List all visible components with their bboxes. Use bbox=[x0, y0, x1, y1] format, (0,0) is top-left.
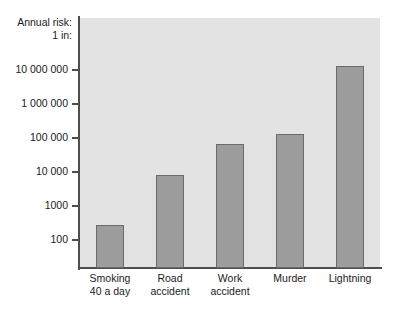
y-axis-tick-label: 10 000 bbox=[36, 166, 68, 177]
y-axis-tick bbox=[72, 137, 79, 139]
x-axis-category-label: Workaccident bbox=[200, 272, 260, 297]
x-axis-category-label-line: Lightning bbox=[320, 272, 380, 285]
y-axis-caption-line2: 1 in: bbox=[0, 29, 72, 42]
x-axis-category-label: Murder bbox=[260, 272, 320, 285]
y-axis-tick bbox=[72, 69, 79, 71]
y-axis-tick-label: 100 000 bbox=[30, 132, 68, 143]
y-axis-line bbox=[78, 16, 80, 270]
y-axis-tick-label: 1000 bbox=[45, 200, 68, 211]
bar bbox=[276, 134, 304, 268]
y-axis-caption-line1: Annual risk: bbox=[0, 16, 72, 29]
bar bbox=[96, 225, 124, 268]
y-axis-tick bbox=[72, 205, 79, 207]
y-axis-tick-label: 100 bbox=[50, 234, 68, 245]
x-axis-category-label-line: accident bbox=[140, 285, 200, 298]
bar bbox=[216, 144, 244, 268]
x-axis-category-label-line: Road bbox=[140, 272, 200, 285]
x-axis-category-label: Smoking40 a day bbox=[80, 272, 140, 297]
y-axis-tick bbox=[72, 239, 79, 241]
y-axis-tick-label: 10 000 000 bbox=[15, 64, 68, 75]
y-axis-tick bbox=[72, 103, 79, 105]
y-axis-tick-label: 1 000 000 bbox=[21, 98, 68, 109]
y-axis-caption: Annual risk: 1 in: bbox=[0, 16, 72, 42]
bar bbox=[336, 66, 364, 268]
x-axis-category-label: Roadaccident bbox=[140, 272, 200, 297]
x-axis-category-label-line: 40 a day bbox=[80, 285, 140, 298]
bar-chart: Annual risk: 1 in: 10 000 0001 000 00010… bbox=[0, 0, 398, 315]
x-axis-category-label-line: Work bbox=[200, 272, 260, 285]
bar bbox=[156, 175, 184, 268]
y-axis-tick bbox=[72, 171, 79, 173]
x-axis-category-label: Lightning bbox=[320, 272, 380, 285]
x-axis-category-label-line: Murder bbox=[260, 272, 320, 285]
x-axis-category-label-line: accident bbox=[200, 285, 260, 298]
x-axis-category-label-line: Smoking bbox=[80, 272, 140, 285]
